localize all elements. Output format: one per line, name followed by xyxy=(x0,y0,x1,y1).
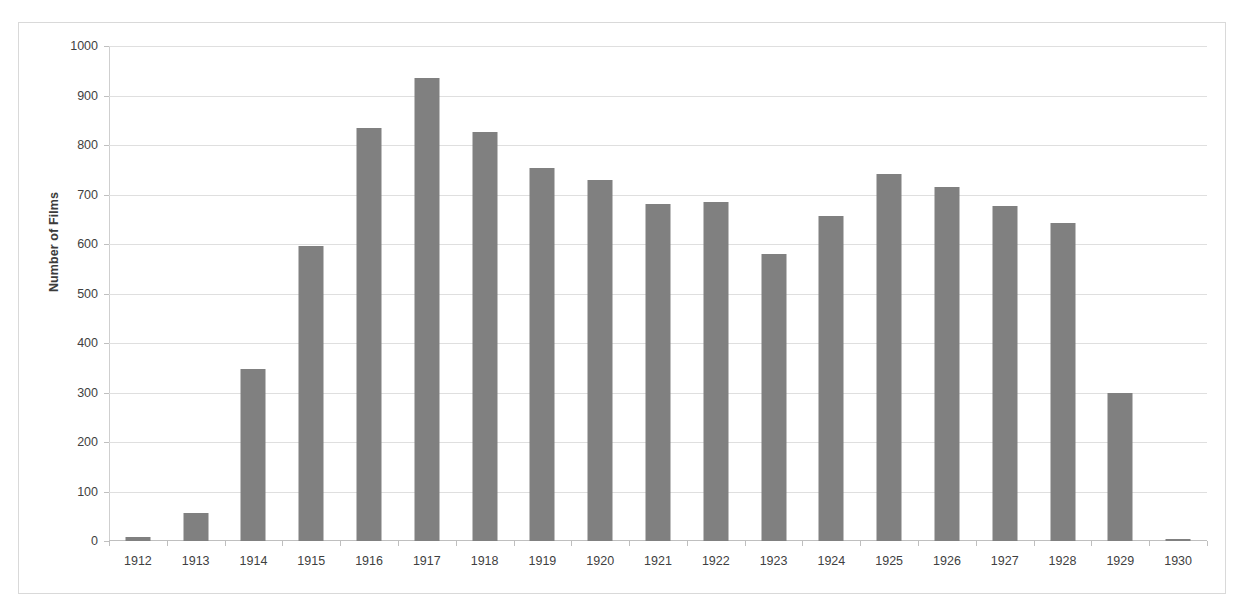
y-axis-tick-label: 800 xyxy=(77,138,98,152)
bar[interactable] xyxy=(472,132,497,541)
x-axis-tick xyxy=(687,541,688,546)
y-axis-tick-label: 1000 xyxy=(70,39,98,53)
x-axis-tick xyxy=(1149,541,1150,546)
x-axis-tick-label: 1928 xyxy=(1049,554,1077,568)
x-axis-tick-label: 1927 xyxy=(991,554,1019,568)
x-axis-tick-label: 1913 xyxy=(182,554,210,568)
x-axis-tick-label: 1915 xyxy=(297,554,325,568)
y-axis-tick-label: 300 xyxy=(77,386,98,400)
x-axis-tick-label: 1929 xyxy=(1106,554,1134,568)
x-axis-tick xyxy=(860,541,861,546)
chart-frame: Number of Films 010020030040050060070080… xyxy=(18,22,1226,594)
x-axis-tick xyxy=(1034,541,1035,546)
bar-group[interactable]: 1913 xyxy=(167,46,225,541)
x-axis-tick-label: 1926 xyxy=(933,554,961,568)
bar-group[interactable]: 1928 xyxy=(1034,46,1092,541)
x-axis-tick xyxy=(225,541,226,546)
x-axis-tick xyxy=(629,541,630,546)
bar-group[interactable]: 1930 xyxy=(1149,46,1207,541)
bar-group[interactable]: 1924 xyxy=(802,46,860,541)
x-axis-tick xyxy=(282,541,283,546)
y-axis-tick-label: 0 xyxy=(91,534,98,548)
x-axis-tick xyxy=(571,541,572,546)
bar-group[interactable]: 1912 xyxy=(109,46,167,541)
bar-group[interactable]: 1916 xyxy=(340,46,398,541)
bar[interactable] xyxy=(1108,393,1133,542)
bar-group[interactable]: 1929 xyxy=(1091,46,1149,541)
x-axis-tick xyxy=(167,541,168,546)
bar-group[interactable]: 1919 xyxy=(514,46,572,541)
bar[interactable] xyxy=(241,369,266,541)
bar[interactable] xyxy=(183,513,208,541)
bar[interactable] xyxy=(992,206,1017,541)
bar[interactable] xyxy=(1166,539,1191,541)
y-axis-tick-label: 900 xyxy=(77,89,98,103)
bar-group[interactable]: 1920 xyxy=(571,46,629,541)
bar[interactable] xyxy=(588,180,613,541)
bar[interactable] xyxy=(934,187,959,541)
bar[interactable] xyxy=(530,168,555,541)
x-axis-tick xyxy=(976,541,977,546)
x-axis-tick-label: 1922 xyxy=(702,554,730,568)
x-axis-tick xyxy=(340,541,341,546)
bar-group[interactable]: 1927 xyxy=(976,46,1034,541)
y-axis-title: Number of Films xyxy=(47,177,61,307)
bar-group[interactable]: 1922 xyxy=(687,46,745,541)
bar[interactable] xyxy=(357,128,382,541)
chart-screenshot: Number of Films 010020030040050060070080… xyxy=(0,0,1241,614)
bar-group[interactable]: 1923 xyxy=(745,46,803,541)
x-axis-tick xyxy=(109,541,110,546)
bar-group[interactable]: 1918 xyxy=(456,46,514,541)
y-axis-tick-label: 400 xyxy=(77,336,98,350)
bar[interactable] xyxy=(1050,223,1075,541)
x-axis-tick-label: 1923 xyxy=(760,554,788,568)
x-axis-tick-label: 1912 xyxy=(124,554,152,568)
bar-group[interactable]: 1921 xyxy=(629,46,687,541)
bar[interactable] xyxy=(761,254,786,541)
x-axis-tick-label: 1916 xyxy=(355,554,383,568)
bar[interactable] xyxy=(299,246,324,542)
x-axis-tick xyxy=(802,541,803,546)
x-axis-tick-label: 1921 xyxy=(644,554,672,568)
x-axis-tick-label: 1917 xyxy=(413,554,441,568)
x-axis-tick-label: 1918 xyxy=(471,554,499,568)
bar-group[interactable]: 1914 xyxy=(225,46,283,541)
x-axis-tick xyxy=(1091,541,1092,546)
x-axis-tick xyxy=(514,541,515,546)
x-axis-tick xyxy=(918,541,919,546)
bars-layer: 1912191319141915191619171918191919201921… xyxy=(109,46,1207,541)
bar-group[interactable]: 1925 xyxy=(860,46,918,541)
bar-group[interactable]: 1915 xyxy=(282,46,340,541)
y-axis-tick-label: 700 xyxy=(77,188,98,202)
x-axis-tick-label: 1924 xyxy=(817,554,845,568)
bar[interactable] xyxy=(414,78,439,541)
y-axis-tick-label: 500 xyxy=(77,287,98,301)
x-axis-tick xyxy=(1207,541,1208,546)
x-axis-tick-label: 1930 xyxy=(1164,554,1192,568)
y-axis-tick-label: 600 xyxy=(77,237,98,251)
x-axis-tick xyxy=(745,541,746,546)
bar-group[interactable]: 1917 xyxy=(398,46,456,541)
bar[interactable] xyxy=(645,204,670,541)
x-axis-tick xyxy=(398,541,399,546)
y-axis-tick-label: 100 xyxy=(77,485,98,499)
x-axis-tick xyxy=(456,541,457,546)
x-axis-tick-label: 1925 xyxy=(875,554,903,568)
x-axis-tick-label: 1920 xyxy=(586,554,614,568)
gridline xyxy=(109,541,1207,542)
bar[interactable] xyxy=(877,174,902,541)
x-axis-tick-label: 1919 xyxy=(529,554,557,568)
x-axis-tick-label: 1914 xyxy=(240,554,268,568)
bar[interactable] xyxy=(703,202,728,541)
bar[interactable] xyxy=(819,216,844,541)
y-axis-tick-label: 200 xyxy=(77,435,98,449)
bar[interactable] xyxy=(125,537,150,541)
plot-area: 01002003004005006007008009001000 1912191… xyxy=(109,46,1207,541)
bar-group[interactable]: 1926 xyxy=(918,46,976,541)
